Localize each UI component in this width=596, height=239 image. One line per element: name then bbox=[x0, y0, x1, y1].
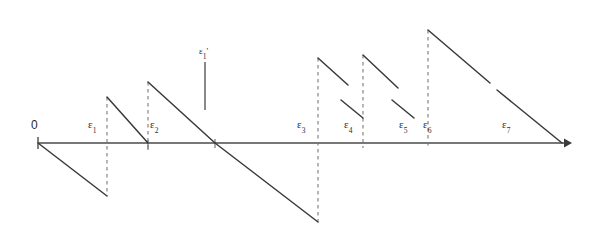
curve-seg-tooth6-descend-b bbox=[497, 90, 562, 143]
epsilon-subscript: 3 bbox=[302, 126, 306, 135]
curve-seg-tooth1-descend bbox=[107, 97, 148, 143]
epsilon-subscript: 7 bbox=[507, 126, 511, 135]
curve-seg-step-e5-e6 bbox=[392, 100, 414, 118]
axis-label-e4: ε4 bbox=[344, 118, 352, 133]
epsilon-glyph: ε bbox=[88, 118, 93, 130]
axis-label-e6: ε6 bbox=[423, 118, 431, 133]
origin-label: 0 bbox=[31, 118, 38, 132]
axis-label-e5: ε5 bbox=[399, 118, 407, 133]
figure-container: 0 ε1 ε2 ε3 ε4 ε5 ε6 ε7 ε1' bbox=[0, 0, 596, 239]
epsilon-glyph: ε bbox=[150, 118, 155, 130]
epsilon-glyph: ε bbox=[297, 118, 302, 130]
epsilon-subscript: 2 bbox=[155, 126, 159, 135]
axis-label-e7: ε7 bbox=[502, 118, 510, 133]
axis-arrowhead bbox=[564, 139, 572, 148]
curve-seg-tooth4-descend bbox=[363, 55, 398, 88]
epsilon-glyph: ε bbox=[502, 118, 507, 130]
epsilon-subscript: 5 bbox=[404, 126, 408, 135]
axis-group bbox=[38, 137, 572, 150]
epsilon-subscript: 6 bbox=[428, 126, 432, 135]
curve-seg-tooth3-descend bbox=[318, 58, 348, 85]
epsilon-subscript: 1 bbox=[93, 126, 97, 135]
curve-seg-origin-descend bbox=[38, 143, 107, 196]
curve-seg-step-e3-e4 bbox=[341, 100, 363, 118]
curve-seg-tooth6-descend-a bbox=[428, 30, 490, 83]
epsilon-glyph: ε bbox=[344, 118, 349, 130]
epsilon-glyph: ε bbox=[423, 118, 428, 130]
axis-label-e1: ε1 bbox=[88, 118, 96, 133]
curve-seg-tooth2-below bbox=[215, 143, 318, 222]
axis-label-e3: ε3 bbox=[297, 118, 305, 133]
epsilon-subscript: 1 bbox=[203, 52, 207, 61]
floating-label-e1-prime: ε1' bbox=[199, 46, 208, 59]
epsilon-subscript: 4 bbox=[349, 126, 353, 135]
epsilon-glyph: ε bbox=[399, 118, 404, 130]
axis-label-e2: ε2 bbox=[150, 118, 158, 133]
